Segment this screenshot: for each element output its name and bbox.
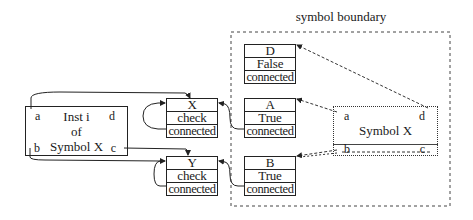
- x-self-loop: [143, 103, 166, 129]
- symbol-pin-a: a: [344, 110, 349, 122]
- instance-pin-b: b: [34, 142, 40, 154]
- record-b-name: B: [245, 157, 295, 170]
- record-y-value: check: [167, 170, 217, 183]
- wire-symd-to-d: [297, 45, 428, 108]
- wire-c-to-y: [124, 148, 188, 155]
- record-x: X check connected: [166, 98, 218, 138]
- symbol-pin-d: d: [419, 110, 425, 122]
- symbol-pin-c: c: [420, 143, 425, 155]
- record-d-name: D: [245, 45, 295, 58]
- record-d-status: connected: [245, 71, 295, 83]
- record-d: D False connected: [244, 44, 296, 84]
- record-a-value: True: [245, 112, 295, 125]
- record-x-name: X: [167, 99, 217, 112]
- record-b-value: True: [245, 170, 295, 183]
- instance-label-line2: of: [26, 124, 127, 139]
- instance-box: Inst i of Symbol X a d b c: [25, 106, 128, 156]
- symbol-pin-b: b: [344, 143, 350, 155]
- record-a-name: A: [245, 99, 295, 112]
- record-y-status: connected: [167, 183, 217, 195]
- record-y: Y check connected: [166, 156, 218, 196]
- symbol-box: Symbol X a d b c: [333, 106, 438, 156]
- record-a: A True connected: [244, 98, 296, 138]
- record-b-status: connected: [245, 183, 295, 195]
- instance-pin-a: a: [35, 110, 40, 122]
- record-a-status: connected: [245, 125, 295, 137]
- diagram-title: symbol boundary: [285, 9, 397, 25]
- record-d-value: False: [245, 58, 295, 71]
- record-b: B True connected: [244, 156, 296, 196]
- record-x-value: check: [167, 112, 217, 125]
- y-self-loop: [154, 161, 166, 186]
- instance-pin-d: d: [109, 110, 115, 122]
- record-y-name: Y: [167, 157, 217, 170]
- record-x-status: connected: [167, 125, 217, 137]
- symbol-label: Symbol X: [334, 123, 437, 139]
- instance-pin-c: c: [111, 142, 116, 154]
- wire-syma-to-a: [297, 99, 337, 112]
